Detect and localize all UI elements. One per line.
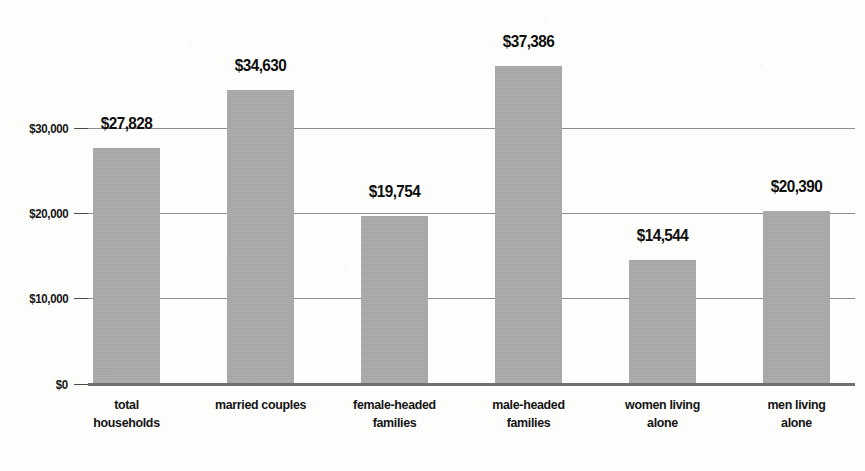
y-axis-tick-30000: $30,000	[0, 120, 88, 136]
y-axis-label-10000: $10,000	[29, 291, 68, 306]
category-label-married-couples: married couples	[210, 396, 310, 414]
y-tick-dash-icon	[74, 213, 88, 214]
value-label-female-headed-families: $19,754	[355, 182, 433, 202]
bar-women-living-alone[interactable]	[629, 260, 696, 384]
bar-married-couples[interactable]	[227, 90, 294, 384]
category-label-male-headed-families: male-headed families	[478, 396, 578, 432]
bar-fill	[361, 216, 428, 384]
bar-fill	[763, 211, 830, 384]
gridline-20000	[88, 213, 855, 214]
value-label-married-couples: $34,630	[221, 56, 299, 76]
y-tick-dash-icon	[74, 128, 88, 129]
value-label-women-living-alone: $14,544	[623, 226, 701, 246]
bar-men-living-alone[interactable]	[763, 211, 830, 384]
value-label-male-headed-families: $37,386	[489, 32, 567, 52]
category-label-line-1: men living	[746, 396, 846, 414]
category-label-line-1: female-headed	[344, 396, 444, 414]
bar-fill	[93, 148, 160, 384]
category-label-female-headed-families: female-headed families	[344, 396, 444, 432]
value-label-total-households: $27,828	[87, 114, 165, 134]
category-label-line-2: alone	[746, 414, 846, 432]
gridline-30000	[88, 128, 855, 129]
category-label-line-1: married couples	[210, 396, 310, 414]
value-label-men-living-alone: $20,390	[757, 177, 835, 197]
category-label-total-households: total households	[80, 396, 173, 432]
bar-fill	[629, 260, 696, 384]
y-axis-tick-0: $0	[0, 376, 88, 392]
gridline-10000	[88, 298, 855, 299]
y-tick-dash-icon	[74, 298, 88, 299]
category-label-line-2: alone	[612, 414, 712, 432]
category-label-line-1: male-headed	[478, 396, 578, 414]
y-axis-label-0: $0	[56, 377, 68, 392]
category-label-line-2: families	[478, 414, 578, 432]
bar-chart: $30,000 $20,000 $10,000 $0	[0, 0, 865, 471]
bar-female-headed-families[interactable]	[361, 216, 428, 384]
bar-male-headed-families[interactable]	[495, 66, 562, 384]
x-axis-baseline	[88, 383, 855, 386]
plot-area: $30,000 $20,000 $10,000 $0	[0, 0, 865, 471]
y-tick-dash-icon	[74, 384, 88, 385]
category-label-line-1: women living	[612, 396, 712, 414]
y-axis-tick-10000: $10,000	[0, 290, 88, 306]
bar-total-households[interactable]	[93, 148, 160, 384]
y-axis-tick-20000: $20,000	[0, 205, 88, 221]
bar-fill	[495, 66, 562, 384]
bar-fill	[227, 90, 294, 384]
y-axis-label-30000: $30,000	[29, 121, 68, 136]
category-label-line-2: families	[344, 414, 444, 432]
category-label-line-2: households	[80, 414, 173, 432]
y-axis-label-20000: $20,000	[29, 206, 68, 221]
category-label-men-living-alone: men living alone	[746, 396, 846, 432]
category-label-line-1: total	[80, 396, 173, 414]
category-label-women-living-alone: women living alone	[612, 396, 712, 432]
